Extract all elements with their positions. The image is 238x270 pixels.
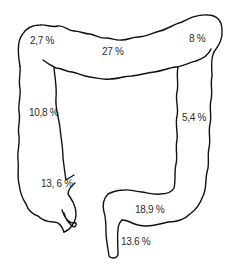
ascending-inner-wall [54,68,76,232]
inner-transverse-contour [43,49,211,79]
label-ascending-colon: 10,8 % [29,107,58,118]
label-descending-colon: 5,4 % [182,112,206,123]
appendix [62,210,76,227]
label-cecum: 13, 6 % [41,178,73,189]
label-sigmoid-colon: 18,9 % [135,204,164,215]
descending-outer-wall [122,52,214,226]
label-rectum: 13.6 % [121,236,150,247]
label-hepatic-flexure: 2,7 % [30,35,54,46]
ascending-outer-wall [18,66,64,232]
label-splenic-flexure: 8 % [189,33,205,44]
label-transverse-colon: 27 % [102,46,124,57]
descending-inner-wall [103,67,178,258]
